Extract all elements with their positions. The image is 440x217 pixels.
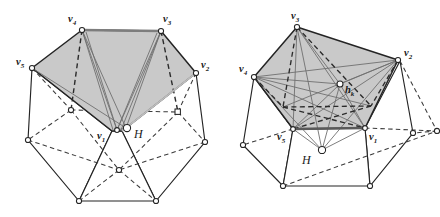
right-vertex-v2	[395, 57, 400, 62]
left-vertex-v5	[29, 65, 34, 70]
left-vertex-lower-left	[25, 137, 30, 142]
right-cap-bottom-highlight	[293, 128, 365, 129]
right-vertex-lower-left	[240, 142, 245, 147]
right-label-v4: v4	[239, 63, 248, 77]
right-vertex-bottom-right	[367, 183, 372, 188]
left-label-v2: v2	[201, 59, 210, 73]
left-figure-svg: v4 v3 v5 v2 v1 H	[0, 0, 440, 217]
left-vertex-v4	[79, 27, 84, 32]
right-vertex-back-right	[434, 128, 439, 133]
left-vertex-v2	[193, 70, 198, 75]
right-label-v2: v2	[404, 47, 413, 61]
left-label-v4: v4	[68, 13, 77, 27]
left-vertex-bottom-left	[76, 198, 81, 203]
right-lower-face-front	[283, 128, 370, 186]
right-hidden-e6	[413, 131, 437, 133]
left-vertex-bottom-right	[153, 198, 158, 203]
left-vertex-v3	[158, 28, 163, 33]
right-vertex-v1	[363, 126, 368, 131]
left-vertex-back-right	[175, 109, 180, 114]
left-cap-top-highlight	[82, 30, 161, 31]
left-label-H: H	[133, 127, 144, 141]
left-vertex-H	[123, 124, 130, 131]
right-vertex-bottom-left	[280, 183, 285, 188]
right-vertex-lower-right	[410, 130, 415, 135]
right-vertex-hk	[337, 81, 343, 87]
left-label-v3: v3	[163, 13, 172, 27]
right-vertex-v3	[294, 24, 299, 29]
right-label-v3: v3	[291, 10, 300, 24]
left-vertex-back-left	[68, 107, 73, 112]
right-label-H: H	[301, 153, 312, 167]
left-vertex-v1	[115, 128, 120, 133]
right-vertex-v5	[291, 127, 296, 132]
left-vertex-bottom-center	[116, 167, 121, 172]
figure-root: v4 v3 v5 v2 v1 H	[0, 0, 440, 217]
right-vertex-H	[318, 146, 325, 153]
left-vertex-lower-right	[202, 139, 207, 144]
left-label-v5: v5	[16, 56, 25, 70]
right-vertex-v4	[251, 74, 256, 79]
